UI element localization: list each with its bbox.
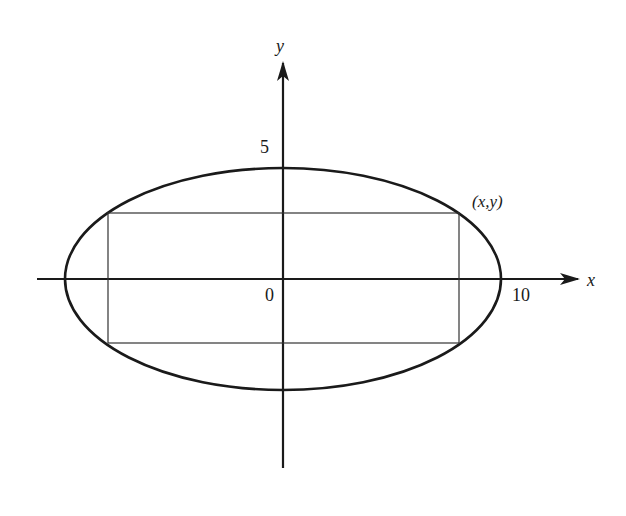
point-label: (x,y) — [472, 192, 503, 211]
ellipse-diagram: y x 5 10 0 (x,y) — [0, 0, 626, 516]
y-axis-label: y — [274, 36, 284, 56]
origin-label: 0 — [265, 285, 274, 305]
x-tick-label: 10 — [512, 285, 530, 305]
y-tick-label: 5 — [260, 137, 269, 157]
x-axis-label: x — [586, 270, 595, 290]
